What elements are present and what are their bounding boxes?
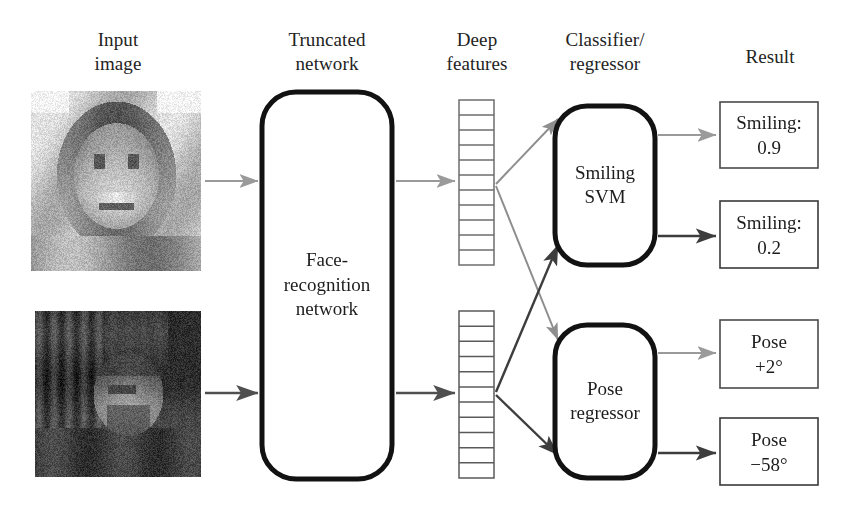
arrow-features-bottom-to-pose — [496, 395, 558, 455]
face-recognition-network-box — [262, 92, 392, 479]
deep-feature-column-bottom-outline — [459, 311, 494, 478]
deep-feature-layer — [459, 100, 494, 478]
deep-feature-column-top-outline — [459, 100, 494, 265]
result-pose-minus58-box — [720, 418, 818, 485]
deep-feature-column-bottom — [459, 311, 494, 478]
diagram-svg — [0, 0, 861, 515]
result-pose-plus2-box — [720, 320, 818, 388]
figure-canvas: InputimageTruncatednetworkDeepfeaturesCl… — [0, 0, 861, 515]
smiling-svm-box — [555, 106, 655, 265]
result-smiling-09-box — [720, 102, 818, 168]
arrow-features-top-to-svm — [496, 119, 558, 184]
deep-feature-column-top — [459, 100, 494, 265]
result-smiling-02-box — [720, 201, 818, 268]
pose-regressor-box — [555, 325, 655, 478]
